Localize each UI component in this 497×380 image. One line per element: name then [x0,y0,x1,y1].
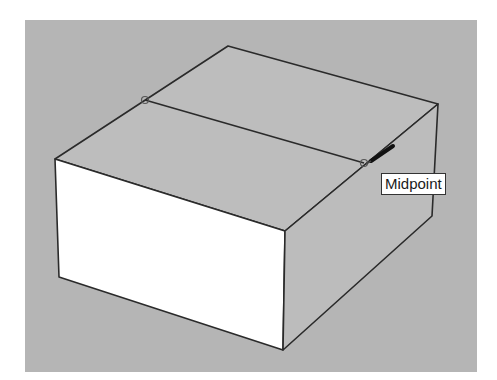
inference-tooltip: Midpoint [381,173,446,195]
